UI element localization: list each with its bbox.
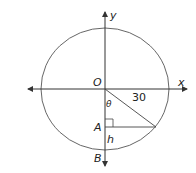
point-b-label: B bbox=[94, 152, 102, 165]
point-a-label: A bbox=[93, 121, 102, 134]
angle-label: θ bbox=[106, 99, 112, 109]
height-label: h bbox=[107, 133, 114, 146]
radius-value-label: 30 bbox=[132, 91, 146, 104]
right-angle-marker bbox=[105, 119, 113, 127]
y-axis-label: y bbox=[109, 9, 117, 22]
circle-diagram: y x O 30 θ A h B bbox=[0, 0, 196, 173]
origin-label: O bbox=[93, 76, 102, 89]
x-axis-label: x bbox=[177, 76, 185, 89]
